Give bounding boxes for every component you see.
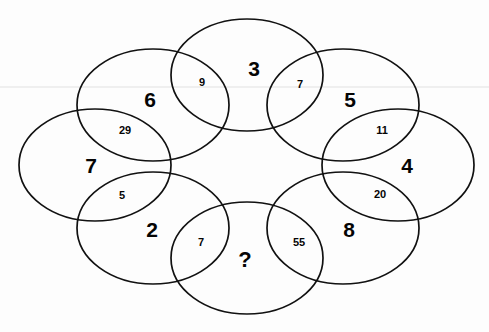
intersection-label-bottom-bottom-left: 7: [198, 237, 204, 248]
puzzle-canvas: 3 6 7 2 ? 8 4 5 9 7 11 20 55 7 5 29: [0, 0, 489, 332]
ellipse-label-bottom-left: 2: [146, 219, 158, 240]
ellipse-ring-diagram: [0, 0, 489, 332]
ellipse-shape-top-right: [267, 49, 419, 161]
ellipse-label-top-left: 6: [144, 89, 156, 110]
intersection-label-bottom-left-left: 5: [119, 190, 125, 201]
ellipse-label-bottom-right: 8: [343, 219, 355, 240]
ellipse-label-right: 4: [401, 155, 413, 176]
ellipse-label-top: 3: [248, 58, 260, 79]
ellipse-shape-right: [322, 109, 474, 221]
ellipse-label-bottom-unknown: ?: [238, 249, 251, 271]
intersection-label-top-left-top: 9: [199, 77, 205, 88]
intersection-label-top-top-right: 7: [297, 79, 303, 90]
intersection-label-left-top-left: 29: [119, 125, 131, 136]
intersection-label-top-right-right: 11: [376, 125, 388, 136]
intersection-label-right-bottom-right: 20: [374, 189, 386, 200]
ellipse-label-top-right: 5: [344, 89, 356, 110]
ellipse-shape-top: [171, 19, 323, 131]
intersection-label-bottom-right-bottom: 55: [293, 237, 305, 248]
ellipse-label-left: 7: [85, 155, 97, 176]
